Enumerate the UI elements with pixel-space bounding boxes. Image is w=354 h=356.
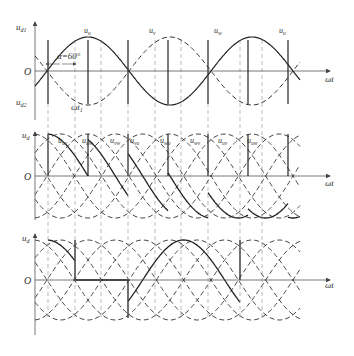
panel1-x-label: ωt [325, 74, 334, 84]
output-segment [248, 204, 288, 219]
panel-2: ud O ωt uuvuuwuvwuvuuwuuwvuuvuuw [22, 130, 334, 220]
line-label: uwv [190, 136, 201, 146]
panel-3: ud O ωt [22, 233, 334, 335]
panel1-ud2-label: ud2 [16, 97, 27, 108]
alpha-label: α=60° [57, 51, 81, 61]
panel1-phase-labels: uuuvuwuu [84, 26, 286, 36]
line-label: uuw [82, 136, 93, 146]
line-label: uwu [160, 136, 171, 146]
phase-label: uv [149, 26, 156, 36]
line-label: uuv [218, 136, 228, 146]
output-segment [88, 140, 128, 196]
line-label: uuw [247, 136, 258, 146]
line-label: uuv [58, 136, 68, 146]
panel3-x-label: ωt [325, 280, 334, 290]
panel2-x-label: ωt [325, 178, 334, 188]
panel1-ud1-label: ud1 [16, 22, 27, 33]
phase-label: uu [279, 26, 286, 36]
panel3-ud-label: ud [22, 233, 31, 244]
panel-1: ud1 ud2 O ωt α=60° ωt1 uuuvuwuu [16, 22, 334, 120]
output-segment [128, 240, 240, 302]
output-segment [168, 173, 208, 218]
panel2-origin-label: O [24, 171, 31, 182]
waveform-diagram: ud1 ud2 O ωt α=60° ωt1 uuuvuwuu ud O ωt … [0, 0, 354, 356]
line-label: uvu [130, 136, 139, 146]
line-label: uvw [110, 136, 120, 146]
panel1-origin-label: O [24, 66, 31, 77]
panel1-commutation-lines [48, 40, 288, 104]
panel3-origin-label: O [24, 275, 31, 286]
output-segment [288, 217, 300, 219]
phase-label: uu [84, 26, 91, 36]
phase-label: uw [214, 26, 222, 36]
commutation-grid-lines [48, 40, 262, 320]
panel2-ud-label: ud [22, 130, 31, 141]
